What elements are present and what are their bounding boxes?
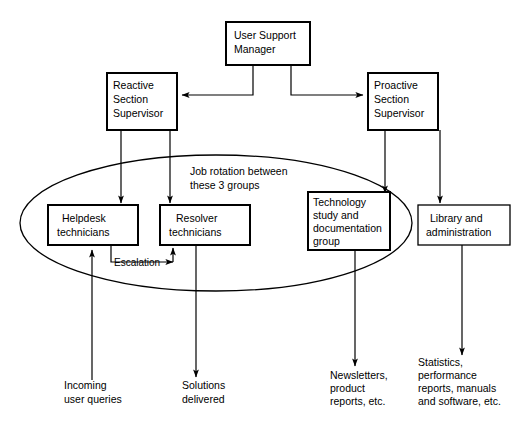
diagram-canvas: User Support Manager Reactive Section Su… xyxy=(0,0,529,426)
job-rotation-annotation: Job rotation between these 3 groups xyxy=(190,165,288,191)
newsletters-caption-line2: product xyxy=(330,382,365,394)
helpdesk-label-line1: Helpdesk xyxy=(62,212,107,224)
caption-newsletters-product-reports: Newsletters, product reports, etc. xyxy=(330,369,388,407)
statistics-caption-line4: and software, etc. xyxy=(418,395,501,407)
node-technology-study-group[interactable]: Technology study and documentation group xyxy=(308,192,390,250)
newsletters-caption-line1: Newsletters, xyxy=(330,369,388,381)
library-administration-box[interactable] xyxy=(418,205,510,245)
incoming-caption-line2: user queries xyxy=(64,393,122,405)
node-proactive-section-supervisor[interactable]: Proactive Section Supervisor xyxy=(368,73,438,130)
job-rotation-label-line2: these 3 groups xyxy=(190,179,259,191)
statistics-caption-line1: Statistics, xyxy=(418,356,463,368)
node-resolver-technicians[interactable]: Resolver technicians xyxy=(160,205,250,245)
statistics-caption-line3: reports, manuals xyxy=(418,382,496,394)
user-support-manager-label-line2: Manager xyxy=(234,43,276,55)
resolver-label-line2: technicians xyxy=(169,226,222,238)
job-rotation-label-line1: Job rotation between xyxy=(190,165,288,177)
org-structure-diagram: User Support Manager Reactive Section Su… xyxy=(0,0,529,426)
caption-solutions-delivered: Solutions delivered xyxy=(182,379,225,405)
technology-label-line1: Technology xyxy=(313,196,367,208)
helpdesk-technicians-box[interactable] xyxy=(48,205,138,245)
proactive-supervisor-label-line2: Section xyxy=(374,93,409,105)
proactive-supervisor-label-line1: Proactive xyxy=(374,79,418,91)
connector-manager-to-reactive xyxy=(182,65,253,95)
user-support-manager-label-line1: User Support xyxy=(234,29,296,41)
connector-manager-to-proactive xyxy=(291,65,363,95)
caption-statistics-performance-reports: Statistics, performance reports, manuals… xyxy=(418,356,501,407)
reactive-supervisor-label-line2: Section xyxy=(113,93,148,105)
technology-label-line4: group xyxy=(313,235,340,247)
proactive-supervisor-label-line3: Supervisor xyxy=(374,107,425,119)
solutions-caption-line2: delivered xyxy=(182,393,225,405)
node-reactive-section-supervisor[interactable]: Reactive Section Supervisor xyxy=(107,73,177,130)
reactive-supervisor-label-line3: Supervisor xyxy=(113,107,164,119)
resolver-technicians-box[interactable] xyxy=(160,205,250,245)
solutions-caption-line1: Solutions xyxy=(182,379,225,391)
statistics-caption-line2: performance xyxy=(418,369,477,381)
library-label-line1: Library and xyxy=(430,212,483,224)
helpdesk-label-line2: technicians xyxy=(57,226,110,238)
node-helpdesk-technicians[interactable]: Helpdesk technicians xyxy=(48,205,138,245)
escalation-label: Escalation xyxy=(114,257,160,268)
library-label-line2: administration xyxy=(426,226,492,238)
newsletters-caption-line3: reports, etc. xyxy=(330,395,385,407)
incoming-caption-line1: Incoming xyxy=(64,379,107,391)
node-user-support-manager[interactable]: User Support Manager xyxy=(226,22,310,65)
reactive-supervisor-label-line1: Reactive xyxy=(113,79,154,91)
resolver-label-line1: Resolver xyxy=(176,212,218,224)
caption-incoming-user-queries: Incoming user queries xyxy=(64,379,122,405)
node-library-administration[interactable]: Library and administration xyxy=(418,205,510,245)
technology-label-line3: documentation xyxy=(313,222,382,234)
technology-label-line2: study and xyxy=(313,209,359,221)
